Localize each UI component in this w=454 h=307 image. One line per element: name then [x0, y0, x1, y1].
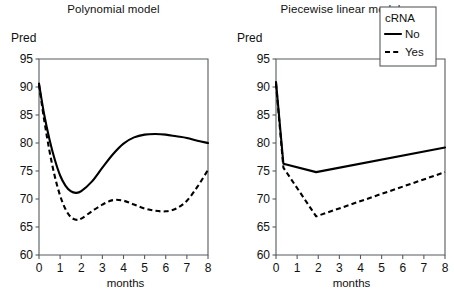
polynomial-y-tick-label: 95 — [20, 52, 34, 66]
polynomial-x-tick-label: 0 — [36, 261, 43, 275]
polynomial-x-tick-label: 5 — [141, 261, 148, 275]
polynomial-x-tick-label: 7 — [184, 261, 191, 275]
x-axis-label-piecewise: months — [227, 276, 454, 290]
piecewise-y-tick-label: 60 — [257, 248, 271, 262]
piecewise-x-tick-label: 5 — [378, 261, 385, 275]
piecewise-x-tick-label: 8 — [442, 261, 449, 275]
chart-panel-piecewise: Piecewise linear model Pred 606570758085… — [227, 0, 454, 307]
piecewise-axis-frame — [276, 59, 445, 255]
plot-area-piecewise: 6065707580859095012345678cRNANoYes — [227, 0, 454, 307]
piecewise-y-tick-label: 85 — [257, 108, 271, 122]
polynomial-y-tick-label: 90 — [20, 80, 34, 94]
polynomial-y-tick-label: 75 — [20, 164, 34, 178]
piecewise-x-tick-label: 1 — [294, 261, 301, 275]
legend-label-no: No — [405, 28, 420, 40]
polynomial-y-tick-label: 60 — [20, 248, 34, 262]
piecewise-series-yes — [276, 84, 445, 217]
polynomial-x-tick-label: 3 — [99, 261, 106, 275]
plot-area-polynomial: 6065707580859095012345678 — [0, 0, 227, 307]
polynomial-y-tick-label: 85 — [20, 108, 34, 122]
polynomial-y-tick-label: 80 — [20, 136, 34, 150]
figure-canvas: Polynomial model Pred 606570758085909501… — [0, 0, 454, 307]
piecewise-series-no — [276, 82, 445, 172]
piecewise-y-tick-label: 75 — [257, 164, 271, 178]
piecewise-y-tick-label: 80 — [257, 136, 271, 150]
polynomial-x-tick-label: 2 — [78, 261, 85, 275]
legend-title: cRNA — [385, 12, 415, 24]
polynomial-x-tick-label: 6 — [162, 261, 169, 275]
polynomial-y-tick-label: 65 — [20, 220, 34, 234]
piecewise-y-tick-label: 95 — [257, 52, 271, 66]
piecewise-y-tick-label: 70 — [257, 192, 271, 206]
polynomial-y-tick-label: 70 — [20, 192, 34, 206]
polynomial-x-tick-label: 4 — [120, 261, 127, 275]
piecewise-x-tick-label: 6 — [399, 261, 406, 275]
piecewise-x-tick-label: 3 — [336, 261, 343, 275]
piecewise-x-tick-label: 7 — [421, 261, 428, 275]
chart-panel-polynomial: Polynomial model Pred 606570758085909501… — [0, 0, 227, 307]
piecewise-x-tick-label: 2 — [315, 261, 322, 275]
legend-label-yes: Yes — [405, 46, 424, 58]
x-axis-label-polynomial: months — [0, 276, 227, 290]
piecewise-y-tick-label: 90 — [257, 80, 271, 94]
polynomial-x-tick-label: 1 — [57, 261, 64, 275]
polynomial-series-yes — [39, 85, 208, 220]
polynomial-x-tick-label: 8 — [205, 261, 212, 275]
piecewise-x-tick-label: 4 — [357, 261, 364, 275]
polynomial-axis-frame — [39, 59, 208, 255]
polynomial-series-no — [39, 84, 208, 193]
piecewise-y-tick-label: 65 — [257, 220, 271, 234]
piecewise-x-tick-label: 0 — [273, 261, 280, 275]
